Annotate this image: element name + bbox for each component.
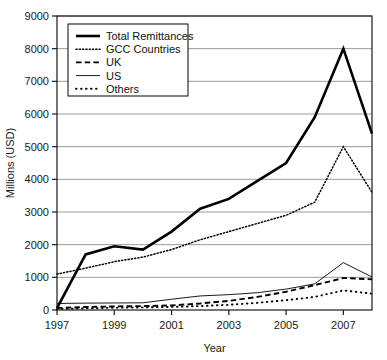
legend-label: Total Remittances	[106, 30, 194, 42]
x-tick-label: 2003	[217, 319, 241, 331]
y-tick-label: 5000	[25, 141, 49, 153]
y-tickmark-group	[52, 16, 57, 310]
x-tick-label: 1997	[45, 319, 69, 331]
x-tick-label: 1999	[102, 319, 126, 331]
series-line-uk	[57, 278, 372, 308]
y-tick-label: 6000	[25, 108, 49, 120]
legend-label: US	[106, 70, 121, 82]
y-tick-label: 8000	[25, 43, 49, 55]
chart-canvas: 0100020003000400050006000700080009000 19…	[0, 0, 387, 360]
y-tick-label: 2000	[25, 239, 49, 251]
x-tickmark-group	[57, 310, 343, 315]
legend-label: UK	[106, 56, 122, 68]
x-tick-label: 2001	[159, 319, 183, 331]
x-tick-label: 2007	[331, 319, 355, 331]
legend-label: GCC Countries	[106, 43, 181, 55]
y-tick-label: 0	[43, 304, 49, 316]
x-axis-title: Year	[203, 342, 226, 354]
y-tick-label: 7000	[25, 75, 49, 87]
chart-legend: Total RemittancesGCC CountriesUKUSOthers	[68, 24, 194, 96]
y-tick-label: 9000	[25, 10, 49, 22]
series-line-us	[57, 263, 372, 304]
legend-label: Others	[106, 83, 140, 95]
y-axis-tick-labels: 0100020003000400050006000700080009000	[25, 10, 49, 316]
x-tick-label: 2005	[274, 319, 298, 331]
y-tick-label: 3000	[25, 206, 49, 218]
x-axis-tick-labels: 199719992001200320052007	[45, 319, 356, 331]
y-tick-label: 4000	[25, 173, 49, 185]
y-axis-title: Millions (USD)	[4, 128, 16, 198]
series-line-gcc-countries	[57, 147, 372, 274]
remittances-line-chart: 0100020003000400050006000700080009000 19…	[0, 0, 387, 360]
y-tick-label: 1000	[25, 271, 49, 283]
